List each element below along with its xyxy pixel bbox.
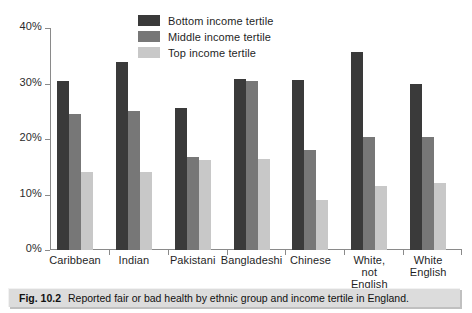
x-axis-group-label: Caribbean	[49, 254, 101, 266]
caption-text: Reported fair or bad health by ethnic gr…	[68, 292, 409, 304]
bar	[363, 137, 375, 250]
bar	[351, 52, 363, 250]
caption-number: Fig. 10.2	[19, 292, 61, 304]
bar	[434, 183, 446, 250]
bar-group-bars	[234, 28, 270, 250]
bar	[57, 81, 69, 250]
bar	[422, 137, 434, 250]
bar	[69, 114, 81, 250]
y-axis-tick-label: 40%	[19, 20, 42, 32]
bar-group: Indian	[109, 28, 168, 250]
bar-group-bars	[351, 28, 387, 250]
x-axis-group-label: Indian	[119, 254, 150, 266]
legend-swatch-bottom-income-tertile	[138, 15, 160, 26]
bar	[187, 157, 199, 250]
bar	[292, 80, 304, 250]
bar	[258, 159, 270, 250]
bar	[304, 150, 316, 250]
bar-group-bars	[116, 28, 152, 250]
bar	[410, 84, 422, 251]
bar-group: Bangladeshi	[227, 28, 286, 250]
x-axis-group-label: Pakistani	[170, 254, 216, 266]
legend-label-bottom-income-tertile: Bottom income tertile	[168, 15, 273, 27]
y-axis-tick-label: 20%	[19, 131, 42, 143]
x-axis-separator-tick	[344, 250, 345, 255]
legend-item-bottom-income-tertile: Bottom income tertile	[138, 13, 273, 28]
bar-group: White English	[403, 28, 462, 250]
x-axis-separator-tick	[168, 250, 169, 255]
bar	[234, 79, 246, 250]
x-axis-separator-tick	[461, 250, 462, 255]
bar	[246, 81, 258, 250]
y-axis-tick-label: 0%	[26, 242, 42, 254]
bar-group: Caribbean	[50, 28, 109, 250]
bar-group: Pakistani	[168, 28, 227, 250]
plot-area: 0%10%20%30%40% CaribbeanIndianPakistaniB…	[50, 28, 462, 250]
x-axis-separator-tick	[285, 250, 286, 255]
bar-group-bars	[292, 28, 328, 250]
x-axis-separator-tick	[403, 250, 404, 255]
bar	[375, 186, 387, 250]
x-axis-separator-tick	[109, 250, 110, 255]
bar	[175, 108, 187, 250]
y-axis-tick-label: 10%	[19, 187, 42, 199]
bar-group-bars	[410, 28, 446, 250]
x-axis-group-label: Bangladeshi	[221, 254, 283, 266]
figure-root: Bottom income tertile Middle income tert…	[0, 0, 472, 313]
bar-group: Chinese	[285, 28, 344, 250]
bar	[140, 172, 152, 250]
x-axis-group-label: White, not English	[351, 254, 388, 290]
y-axis-tick-label: 30%	[19, 76, 42, 88]
bar-group-bars	[175, 28, 211, 250]
bar	[116, 62, 128, 250]
bar-group-bars	[57, 28, 93, 250]
x-axis-group-label: White English	[410, 254, 447, 278]
x-axis-group-label: Chinese	[290, 254, 331, 266]
bar-group: White, not English	[344, 28, 403, 250]
figure-caption: Fig. 10.2 Reported fair or bad health by…	[8, 288, 460, 307]
bar	[316, 200, 328, 250]
bar	[199, 160, 211, 250]
bar	[128, 111, 140, 250]
bar	[81, 172, 93, 250]
y-axis-tick-mark	[45, 250, 50, 251]
